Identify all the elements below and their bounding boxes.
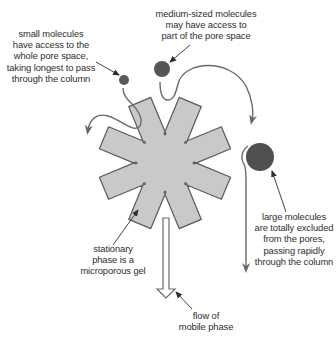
medium-molecule [154,61,170,77]
gel-particle [99,80,230,229]
large-molecule-pointer [272,171,286,212]
large-molecules-label: large molecules are totally excluded fro… [254,211,334,267]
medium-molecules-label: medium-sized molecules may have access t… [150,8,262,42]
large-molecule-path [242,146,248,268]
medium-molecule-pointer [170,45,190,62]
stationary-phase-pointer [113,210,138,245]
small-molecule [119,75,129,85]
stationary-phase-label: stationary phase is a microporous gel [63,243,163,277]
large-molecule [246,143,274,171]
mobile-phase-label: flow of mobile phase [170,310,242,332]
stationary-phase-gel-icon [99,97,230,228]
small-molecule-pointer [96,62,119,75]
mobile-phase-pointer [176,292,192,309]
small-molecules-label: small molecules have access to the whole… [3,28,99,84]
